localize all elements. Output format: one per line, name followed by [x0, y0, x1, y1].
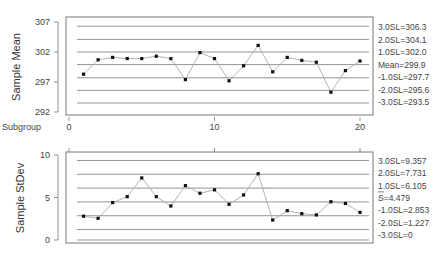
data-point — [344, 69, 347, 72]
reference-label: 1.0SL=302.0 — [378, 47, 427, 57]
x-tick-label: 20 — [355, 122, 365, 132]
data-point — [213, 188, 216, 191]
x-tick-label: 0 — [66, 122, 71, 132]
data-point — [358, 211, 361, 214]
data-point — [315, 61, 318, 64]
y-axis-label: Sample Mean — [10, 33, 22, 101]
data-point — [169, 57, 172, 60]
y-tick-label: 0 — [45, 235, 50, 245]
xbar-chart: 292297302307Sample Mean01020Subgroup3.0S… — [2, 17, 430, 132]
data-point — [111, 56, 114, 59]
data-point — [140, 57, 143, 60]
data-point — [126, 57, 129, 60]
control-chart-figure: 292297302307Sample Mean01020Subgroup3.0S… — [0, 0, 446, 262]
s-chart: 0510Sample StDev3.0SL=9.3572.0SL=7.7311.… — [14, 148, 430, 245]
reference-label: S=4.479 — [378, 193, 410, 203]
data-point — [126, 195, 129, 198]
reference-label: 2.0SL=7.731 — [378, 168, 427, 178]
data-point — [82, 73, 85, 76]
reference-label: -3.0SL=0 — [378, 230, 413, 240]
data-point — [184, 184, 187, 187]
data-point — [271, 218, 274, 221]
data-point — [227, 203, 230, 206]
data-point — [286, 56, 289, 59]
data-point — [140, 176, 143, 179]
data-point — [257, 172, 260, 175]
x-tick-label: 10 — [209, 122, 219, 132]
reference-label: Mean=299.9 — [378, 60, 426, 70]
y-tick-label: 302 — [35, 47, 50, 57]
y-tick-label: 307 — [35, 17, 50, 27]
data-point — [257, 44, 260, 47]
reference-label: -1.0SL=297.7 — [378, 72, 430, 82]
data-point — [97, 58, 100, 61]
data-point — [329, 91, 332, 94]
reference-label: 3.0SL=306.3 — [378, 22, 427, 32]
reference-label: 3.0SL=9.357 — [378, 156, 427, 166]
data-point — [286, 209, 289, 212]
data-point — [300, 59, 303, 62]
data-point — [155, 55, 158, 58]
y-tick-label: 10 — [40, 150, 50, 160]
data-point — [344, 202, 347, 205]
data-point — [198, 192, 201, 195]
reference-label: -2.0SL=1.227 — [378, 218, 430, 228]
data-point — [300, 212, 303, 215]
reference-label: 1.0SL=6.105 — [378, 181, 427, 191]
data-point — [184, 78, 187, 81]
y-tick-label: 5 — [45, 193, 50, 203]
y-tick-label: 292 — [35, 107, 50, 117]
data-point — [271, 70, 274, 73]
data-point — [82, 215, 85, 218]
reference-label: -1.0SL=2.853 — [378, 205, 430, 215]
reference-label: 2.0SL=304.1 — [378, 35, 427, 45]
reference-label: -3.0SL=293.5 — [378, 97, 430, 107]
data-point — [198, 51, 201, 54]
reference-label: -2.0SL=295.6 — [378, 85, 430, 95]
data-point — [169, 204, 172, 207]
data-point — [329, 200, 332, 203]
data-point — [315, 213, 318, 216]
data-point — [227, 79, 230, 82]
data-point — [155, 195, 158, 198]
data-point — [242, 193, 245, 196]
data-point — [213, 57, 216, 60]
data-point — [358, 59, 361, 62]
data-point — [111, 201, 114, 204]
series-line — [84, 174, 361, 220]
data-point — [97, 217, 100, 220]
y-axis-label: Sample StDev — [14, 162, 26, 233]
y-tick-label: 297 — [35, 77, 50, 87]
x-axis-label: Subgroup — [2, 122, 41, 132]
data-point — [242, 64, 245, 67]
